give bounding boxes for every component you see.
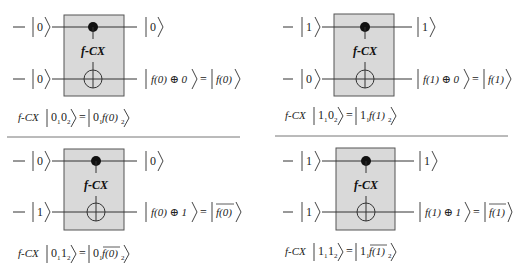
output-target-lhs: f(0) ⊕ 0 — [151, 73, 188, 86]
ket-angle — [192, 202, 197, 222]
gate-label: f-CX — [353, 44, 378, 58]
input-target-value: 1 — [37, 205, 43, 219]
output-target-lhs: f(1) ⊕ 1 — [425, 206, 461, 219]
output-control-value: 0 — [150, 20, 156, 34]
output-target-lhs: f(1) ⊕ 0 — [423, 73, 460, 86]
eq-rhs-q2: f(0) — [102, 247, 118, 260]
ket-angle — [158, 151, 163, 171]
input-target-value: 0 — [37, 72, 43, 86]
eq-lhs-q2-sub: 2 — [334, 116, 338, 124]
ket-angle — [391, 243, 396, 261]
ket-angle — [124, 245, 129, 263]
ket-angle — [71, 109, 76, 127]
panel-bottom-right: 1 f-CX 1 1 f(1) ⊕ 1 = f(1) f-CX 1 1 1 2 — [283, 148, 512, 261]
ket-angle — [45, 17, 50, 37]
ket-angle — [506, 69, 511, 89]
ket-angle — [508, 202, 512, 222]
equals-sign: = — [200, 72, 207, 86]
eq-rhs-q2-sub: 2 — [388, 252, 392, 260]
panel-top-left: 0 f-CX 0 0 f(0) ⊕ 0 = f(0) f-CX 0 1 0 — [13, 15, 240, 127]
ket-angle — [465, 202, 470, 222]
equals-sign: = — [473, 205, 480, 219]
equals-sign: = — [79, 246, 86, 260]
gate-label: f-CX — [84, 178, 109, 192]
ket-angle — [45, 202, 50, 222]
ket-angle — [45, 69, 50, 89]
ket-angle — [430, 17, 435, 37]
eq-lhs-q2-sub: 2 — [67, 118, 71, 126]
output-target-lhs: f(0) ⊕ 1 — [151, 206, 187, 219]
eq-rhs-q2-sub: 2 — [121, 118, 125, 126]
input-target-value: 0 — [306, 72, 312, 86]
eq-rhs-q2-sub: 2 — [121, 254, 125, 262]
ket-angle — [236, 202, 241, 222]
ket-angle — [315, 202, 320, 222]
eq-rhs-q2: f(1) — [369, 245, 385, 258]
eq-lhs-q2-sub: 2 — [334, 252, 338, 260]
gate-label: f-CX — [81, 44, 106, 58]
operator-prefix: f-CX — [285, 109, 307, 121]
equals-sign: = — [200, 205, 207, 219]
ket-angle — [192, 69, 197, 89]
output-target-rhs: f(1) — [488, 73, 504, 86]
eq-rhs-q2-sub: 2 — [388, 116, 392, 124]
ket-angle — [315, 17, 320, 37]
ket-angle — [315, 151, 320, 171]
operator-prefix: f-CX — [285, 245, 307, 257]
equals-sign: = — [79, 110, 86, 124]
input-control-value: 1 — [306, 20, 312, 34]
ket-angle — [45, 151, 50, 171]
input-control-value: 1 — [306, 154, 312, 168]
equals-sign: = — [346, 244, 353, 258]
ket-angle — [432, 151, 437, 171]
ket-angle — [464, 69, 469, 89]
input-control-value: 0 — [37, 154, 43, 168]
state-equation: f-CX 0 1 0 2 = 0 1 f(0) 2 — [18, 109, 129, 127]
ket-angle — [235, 69, 240, 89]
operator-prefix: f-CX — [18, 111, 40, 123]
output-target-rhs: f(0) — [216, 73, 232, 86]
output-target-rhs: f(0) — [216, 206, 232, 219]
ket-angle — [391, 107, 396, 125]
ket-angle — [315, 69, 320, 89]
input-target-value: 1 — [306, 205, 312, 219]
output-control-value: 0 — [150, 154, 156, 168]
state-equation: f-CX 1 1 1 2 = 1 1 f(1) 2 — [285, 243, 396, 261]
eq-rhs-q2: f(0) — [102, 111, 118, 124]
equals-sign: = — [346, 108, 353, 122]
eq-lhs-q2-sub: 2 — [67, 254, 71, 262]
operator-prefix: f-CX — [18, 247, 40, 259]
gate-label: f-CX — [354, 178, 379, 192]
state-equation: f-CX 1 1 0 2 = 1 1 f(1) 2 — [285, 107, 396, 125]
ket-angle — [338, 107, 343, 125]
input-control-value: 0 — [37, 20, 43, 34]
state-equation: f-CX 0 1 1 2 = 0 1 f(0) 2 — [18, 245, 129, 263]
equals-sign: = — [472, 72, 479, 86]
output-control-value: 1 — [424, 154, 430, 168]
ket-angle — [338, 243, 343, 261]
fcx-circuit-diagram: 0 f-CX 0 0 f(0) ⊕ 0 = f(0) f-CX 0 1 0 — [0, 0, 516, 278]
ket-angle — [71, 245, 76, 263]
ket-angle — [158, 17, 163, 37]
output-control-value: 1 — [422, 20, 428, 34]
output-target-rhs: f(1) — [489, 206, 505, 219]
panel-top-right: 1 f-CX 0 1 f(1) ⊕ 0 = f(1) f-CX 1 1 0 2 … — [283, 14, 511, 125]
panel-bottom-left: 0 f-CX 1 0 f(0) ⊕ 1 = f(0) f-CX 0 1 1 2 — [13, 149, 241, 263]
eq-rhs-q2: f(1) — [369, 109, 385, 122]
ket-angle — [124, 109, 129, 127]
